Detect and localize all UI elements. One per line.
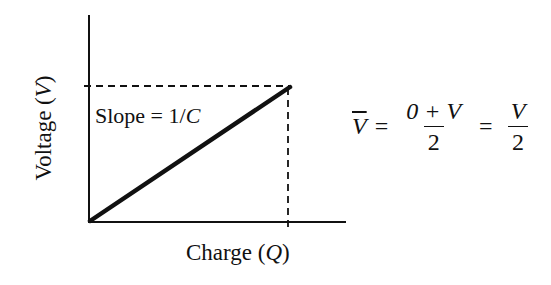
denominator: 2 [424, 126, 444, 155]
numerator: V [507, 98, 530, 126]
equals-sign: = [375, 113, 389, 140]
average-voltage-equation: V = 0 + V 2 = V 2 [352, 98, 535, 155]
numerator: 0 + V [402, 98, 465, 126]
slope-annotation: Slope = 1/C [95, 103, 200, 129]
y-axis-label: Voltage (V) [31, 76, 57, 181]
x-axis-label: Charge (Q) [186, 240, 290, 266]
equals-sign: = [479, 113, 493, 140]
fraction-1: 0 + V 2 [402, 98, 465, 155]
diagram-canvas: Voltage (V) Charge (Q) Slope = 1/C V = 0… [0, 0, 551, 285]
fraction-2: V 2 [507, 98, 530, 155]
denominator: 2 [508, 126, 528, 155]
v-bar-symbol: V [352, 113, 367, 140]
